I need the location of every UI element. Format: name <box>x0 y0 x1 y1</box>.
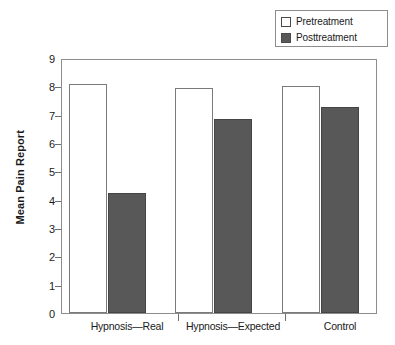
y-tick-label-4: 4 <box>29 196 55 207</box>
chart-legend: Pretreatment Posttreatment <box>275 10 388 47</box>
legend-item-pretreatment: Pretreatment <box>281 14 383 29</box>
bar-pretreatment-group-3 <box>282 86 320 313</box>
x-axis-separator-2 <box>285 314 286 321</box>
bar-pretreatment-group-2 <box>175 88 213 313</box>
y-tick-label-7: 7 <box>29 111 55 122</box>
legend-swatch-pretreatment <box>281 17 291 27</box>
bar-pretreatment-group-1 <box>69 84 107 313</box>
x-axis-group-label-2: Hypnosis—Expected <box>186 320 280 332</box>
y-tick-label-1: 1 <box>29 281 55 292</box>
legend-swatch-posttreatment <box>281 33 291 43</box>
plot-frame <box>61 59 377 314</box>
plot-area <box>62 60 376 313</box>
y-tick-label-3: 3 <box>29 224 55 235</box>
legend-item-posttreatment: Posttreatment <box>281 30 383 45</box>
y-axis-title: Mean Pain Report <box>14 130 26 225</box>
x-axis-group-label-1: Hypnosis—Real <box>91 320 164 332</box>
y-tick-label-6: 6 <box>29 139 55 150</box>
y-tick-label-5: 5 <box>29 167 55 178</box>
legend-label-posttreatment: Posttreatment <box>296 32 357 43</box>
y-tick-label-9: 9 <box>29 54 55 65</box>
bar-posttreatment-group-3 <box>321 107 359 313</box>
bar-posttreatment-group-2 <box>214 119 252 313</box>
bar-posttreatment-group-1 <box>108 193 146 313</box>
x-axis-group-label-3: Control <box>324 320 356 332</box>
x-axis-separator-1 <box>178 314 179 321</box>
y-tick-label-8: 8 <box>29 82 55 93</box>
y-tick-label-0: 0 <box>29 309 55 320</box>
y-tick-label-2: 2 <box>29 252 55 263</box>
legend-label-pretreatment: Pretreatment <box>296 16 353 27</box>
